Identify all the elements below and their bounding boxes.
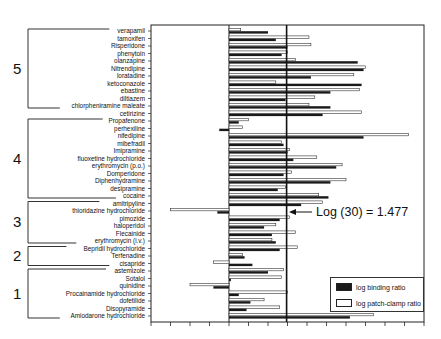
bar-binding	[229, 61, 358, 63]
y-axis-labels: verapamiltamoxifenRisperidonephenytoinol…	[66, 27, 151, 320]
bar-patch-clamp	[229, 96, 315, 98]
bar-patch-clamp	[171, 208, 230, 210]
category-label: Flecainide	[116, 230, 146, 237]
bar-binding	[217, 211, 229, 213]
bar-patch-clamp	[229, 81, 276, 83]
bar-binding	[229, 174, 284, 176]
bar-patch-clamp	[229, 313, 373, 315]
group-number: 3	[13, 213, 21, 230]
legend-label: log binding ratio	[356, 284, 405, 291]
group-brackets: 54321	[13, 29, 116, 318]
bar-binding	[229, 84, 362, 86]
bar-patch-clamp	[229, 141, 282, 143]
bar-binding	[229, 241, 276, 243]
group-number: 5	[13, 60, 21, 77]
category-label: tamoxifen	[117, 35, 145, 42]
category-label: ketoconazole	[107, 80, 145, 87]
bar-binding	[229, 166, 336, 168]
bar-patch-clamp	[229, 298, 264, 300]
bar-binding	[229, 106, 330, 108]
bar-binding	[229, 301, 250, 303]
x-axis-ticks	[151, 322, 424, 326]
bar-patch-clamp	[229, 171, 291, 173]
category-label: loratadine	[117, 72, 146, 79]
category-label: Amiodarone hydrochloride	[70, 312, 145, 320]
bar-patch-clamp	[229, 133, 408, 135]
bar-binding	[219, 129, 229, 131]
group-number: 2	[13, 247, 21, 264]
bar-binding	[229, 279, 231, 281]
bar-patch-clamp	[229, 216, 289, 218]
bar-binding	[229, 136, 364, 138]
legend-swatch-light	[336, 299, 352, 307]
bar-binding	[229, 181, 330, 183]
category-label: Sotalol	[125, 275, 145, 282]
legend-label: log patch-clamp ratio	[356, 300, 421, 307]
bar-patch-clamp	[229, 223, 276, 225]
bar-patch-clamp	[229, 291, 288, 293]
group-bracket	[28, 29, 109, 108]
bar-patch-clamp	[229, 126, 243, 128]
bar-binding	[229, 151, 288, 153]
category-label: Terfenadine	[112, 252, 146, 259]
legend-swatch-dark	[336, 283, 352, 291]
bar-patch-clamp	[229, 88, 360, 90]
bar-binding	[229, 249, 280, 251]
category-label: cetirizine	[120, 110, 146, 117]
bar-binding	[229, 309, 247, 311]
bar-patch-clamp	[213, 261, 229, 263]
legend-item-patch-clamp: log patch-clamp ratio	[331, 296, 423, 310]
bar-patch-clamp	[229, 58, 295, 60]
bar-patch-clamp	[229, 178, 346, 180]
bar-binding	[229, 54, 282, 56]
group-number: 4	[13, 150, 21, 167]
category-label: dofetilide	[119, 297, 145, 304]
bar-patch-clamp	[229, 231, 295, 233]
bar-patch-clamp	[229, 66, 366, 68]
bar-patch-clamp	[229, 51, 288, 53]
bar-binding	[229, 196, 328, 198]
bar-binding	[229, 234, 272, 236]
bar-patch-clamp	[229, 238, 272, 240]
bar-binding	[229, 91, 330, 93]
bar-binding	[229, 264, 252, 266]
bar-patch-clamp	[229, 201, 323, 203]
bar-binding	[229, 226, 264, 228]
category-label: ebastine	[121, 87, 146, 94]
bar-patch-clamp	[229, 73, 354, 75]
category-label: mibefradil	[117, 140, 145, 147]
category-label: astemizole	[114, 267, 145, 274]
legend-item-binding: log binding ratio	[331, 280, 423, 294]
bar-patch-clamp	[229, 148, 289, 150]
category-label: diltiazem	[120, 95, 145, 102]
bar-binding	[229, 46, 288, 48]
bar-binding	[229, 76, 311, 78]
bar-binding	[229, 256, 245, 258]
bar-binding	[229, 294, 239, 296]
bar-patch-clamp	[229, 306, 280, 308]
bar-binding	[229, 189, 278, 191]
bar-patch-clamp	[229, 43, 311, 45]
bar-binding	[213, 286, 229, 288]
group-number: 1	[13, 285, 21, 302]
bar-binding	[229, 316, 350, 318]
bar-patch-clamp	[229, 28, 241, 30]
bar-patch-clamp	[229, 276, 282, 278]
bar-binding	[229, 271, 268, 273]
bar-binding	[229, 99, 286, 101]
bar-binding	[229, 159, 293, 161]
category-label: cocaine	[123, 192, 145, 199]
legend: log binding ratio log patch-clamp ratio	[330, 277, 424, 312]
bar-binding	[229, 121, 239, 123]
bar-patch-clamp	[229, 268, 284, 270]
bar-patch-clamp	[229, 253, 243, 255]
bar-binding	[229, 69, 364, 71]
bar-patch-clamp	[229, 111, 362, 113]
bar-binding	[229, 39, 276, 41]
bar-patch-clamp	[229, 36, 309, 38]
bar-patch-clamp	[229, 156, 317, 158]
bar-patch-clamp	[190, 283, 229, 285]
bar-patch-clamp	[229, 186, 286, 188]
bar-binding	[229, 114, 323, 116]
bar-patch-clamp	[229, 163, 342, 165]
